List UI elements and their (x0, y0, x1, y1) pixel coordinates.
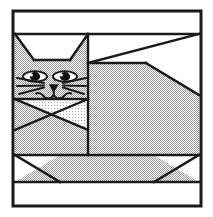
patch-top-sashing-strip (15, 13, 199, 34)
cat-quilt-block-diagram (0, 0, 213, 217)
figure-canvas: Cat quilt block Patchwork cat pieced blo… (0, 0, 213, 217)
patch-bottom-sashing-strip (15, 182, 199, 204)
